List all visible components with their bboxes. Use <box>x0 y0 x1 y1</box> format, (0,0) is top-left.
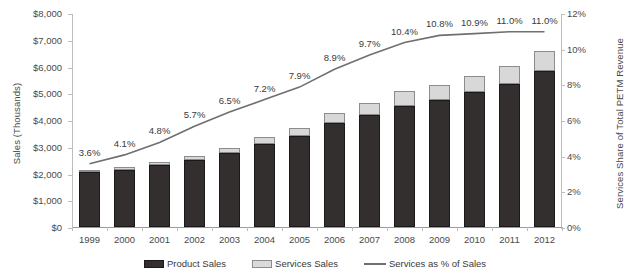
x-axis-label: 1999 <box>70 234 110 245</box>
line-data-label: 6.5% <box>213 95 247 106</box>
legend-item-services-percent: Services as % of Sales <box>364 258 486 269</box>
line-data-label: 8.9% <box>318 52 352 63</box>
y-axis-right-tick-label: 4% <box>567 151 607 162</box>
services-swatch-icon <box>252 260 272 268</box>
x-axis-label: 2010 <box>455 234 495 245</box>
chart-container: Sales (Thousands) Services Share of Tota… <box>0 0 630 280</box>
line-data-label: 10.4% <box>388 26 422 37</box>
y-axis-right-tick-label: 8% <box>567 79 607 90</box>
y-axis-left-tick-label: $1,000 <box>4 195 62 206</box>
line-data-label: 4.8% <box>143 125 177 136</box>
y-axis-left-tick-label: $6,000 <box>4 62 62 73</box>
chart-legend: Product Sales Services Sales Services as… <box>0 258 630 269</box>
x-axis-label: 2004 <box>245 234 285 245</box>
x-axis-tick <box>562 227 563 231</box>
x-axis-label: 2003 <box>210 234 250 245</box>
y-axis-right-tick-label: 6% <box>567 115 607 126</box>
line-data-label: 3.6% <box>73 147 107 158</box>
line-data-label: 5.7% <box>178 109 212 120</box>
legend-item-services-sales: Services Sales <box>252 258 338 269</box>
y-axis-left-tick-label: $0 <box>4 222 62 233</box>
y-axis-left-tick-label: $7,000 <box>4 35 62 46</box>
x-axis-label: 2006 <box>315 234 355 245</box>
y-axis-right-tick-label: 10% <box>567 44 607 55</box>
legend-label-product-sales: Product Sales <box>167 258 226 269</box>
x-axis-label: 2005 <box>280 234 320 245</box>
y-axis-right-title: Services Share of Total PETM Revenue <box>614 24 625 224</box>
line-data-label: 10.9% <box>458 17 492 28</box>
y-axis-right-tick-label: 2% <box>567 186 607 197</box>
x-axis-label: 2011 <box>490 234 530 245</box>
x-axis-label: 2002 <box>175 234 215 245</box>
y-axis-right-tick-label: 0% <box>567 222 607 233</box>
line-data-label: 7.2% <box>248 83 282 94</box>
y-axis-left-tick-label: $2,000 <box>4 169 62 180</box>
line-data-label: 11.0% <box>493 15 527 26</box>
legend-label-services-percent: Services as % of Sales <box>389 258 486 269</box>
y-axis-right-tick-label: 12% <box>567 8 607 19</box>
y-axis-left-tick-label: $5,000 <box>4 88 62 99</box>
x-axis-label: 2001 <box>140 234 180 245</box>
line-data-label: 10.8% <box>423 18 457 29</box>
x-axis-label: 2007 <box>350 234 390 245</box>
y-axis-left-tick-label: $8,000 <box>4 8 62 19</box>
plot-area: $0$1,000$2,000$3,000$4,000$5,000$6,000$7… <box>72 14 562 228</box>
line-data-label: 4.1% <box>108 138 142 149</box>
line-data-label: 7.9% <box>283 70 317 81</box>
legend-label-services-sales: Services Sales <box>275 258 338 269</box>
legend-item-product-sales: Product Sales <box>144 258 226 269</box>
x-axis-label: 2000 <box>105 234 145 245</box>
y-axis-left-tick-label: $3,000 <box>4 142 62 153</box>
line-data-label: 9.7% <box>353 38 387 49</box>
line-swatch-icon <box>364 263 386 265</box>
product-swatch-icon <box>144 260 164 268</box>
y-axis-left-tick-label: $4,000 <box>4 115 62 126</box>
line-series-svg <box>72 14 562 228</box>
x-axis-label: 2009 <box>420 234 460 245</box>
line-data-label: 11.0% <box>528 15 562 26</box>
x-axis-label: 2012 <box>525 234 565 245</box>
x-axis-label: 2008 <box>385 234 425 245</box>
